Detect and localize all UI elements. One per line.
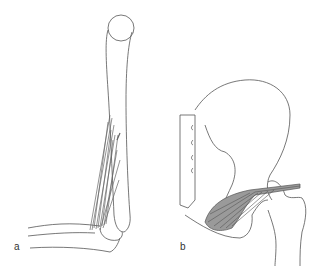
figure-drawing: [0, 0, 322, 266]
panel-b-drawing: [180, 80, 306, 266]
forearm-mid-edge: [28, 233, 95, 236]
panel-a-muscle: [90, 115, 120, 230]
humerus-right-edge: [124, 32, 132, 232]
sacrum: [180, 115, 195, 208]
panel-a-drawing: [28, 15, 134, 252]
panel-label-a: a: [14, 241, 20, 252]
anatomical-figure: a b: [0, 0, 322, 266]
sacral-foramina: [192, 125, 194, 173]
humeral-head: [108, 15, 134, 41]
femur-lateral: [268, 181, 306, 266]
forearm-bottom-edge: [30, 238, 120, 252]
forearm-top-edge: [28, 224, 100, 228]
panel-b-muscle: [205, 184, 300, 230]
femur-medial: [268, 210, 276, 266]
panel-label-b: b: [180, 241, 186, 252]
